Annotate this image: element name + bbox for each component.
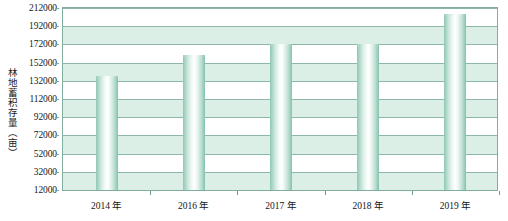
y-axis-tick-mark [55,44,59,45]
bar[interactable] [357,44,379,190]
y-axis-tick-mark [55,117,59,118]
bar-top-cap [270,44,292,46]
y-axis-tick-label: 132000 [29,76,57,86]
gridline [63,190,497,191]
y-axis-tick-mark [55,172,59,173]
y-axis-tick-mark [55,190,59,191]
y-axis-tick-label-group: 2120001920001720001520001320001120009200… [16,0,59,221]
gridline [63,8,497,9]
x-axis-tick-label: 2016 年 [178,198,209,212]
y-axis-tick-label: 12000 [34,185,57,195]
y-axis-tick-mark [55,8,59,9]
x-axis-tick-mark [237,191,238,195]
bar-top-cap [183,55,205,57]
x-axis-tick-label: 2014 年 [91,198,122,212]
x-axis-tick-label: 2019 年 [440,198,471,212]
y-axis-tick-label: 52000 [34,149,57,159]
y-axis-tick-label: 32000 [34,167,57,177]
bar[interactable] [183,55,205,190]
x-axis-tick-label: 2018 年 [353,198,384,212]
y-axis-tick-mark [55,63,59,64]
y-axis-tick-mark [55,99,59,100]
gridline [63,26,497,27]
y-axis-tick-label: 152000 [29,58,57,68]
y-axis-tick-label: 192000 [29,21,57,31]
x-axis-tick-mark [499,191,500,195]
x-axis-tick-mark [150,191,151,195]
bar-top-cap [96,76,118,78]
y-axis-tick-label: 72000 [34,130,57,140]
y-axis-tick-label: 112000 [29,94,57,104]
bar-top-cap [357,44,379,46]
bar[interactable] [444,14,466,190]
y-axis-tick-label: 212000 [29,3,57,13]
x-axis-tick-mark [325,191,326,195]
x-axis-tick-label: 2017 年 [265,198,296,212]
bar-chart: 林地蓄积存量（亩） 212000192000172000152000132000… [0,0,508,221]
y-axis-tick-mark [55,81,59,82]
y-axis-tick-mark [55,135,59,136]
bar-top-cap [444,14,466,16]
y-axis-tick-label: 172000 [29,39,57,49]
y-axis-title: 林地蓄积存量（亩） [2,48,17,178]
plot-area [62,7,498,191]
bar[interactable] [270,44,292,190]
y-axis-tick-label: 92000 [34,112,57,122]
bar[interactable] [96,76,118,190]
y-axis-tick-mark [55,26,59,27]
background-band [63,26,497,44]
x-axis-tick-mark [412,191,413,195]
y-axis-tick-mark [55,154,59,155]
